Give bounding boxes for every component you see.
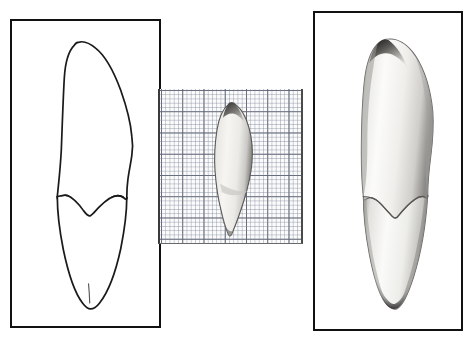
tooth-photo-on-grid: [160, 89, 301, 243]
tooth-line-drawing: [12, 21, 159, 326]
tooth-outline-path: [57, 42, 132, 216]
specimen-silhouette-path: [215, 103, 253, 236]
drawing-panel: [10, 19, 161, 328]
scale-photo-panel: [158, 89, 303, 244]
tooth-photograph: [315, 13, 461, 329]
figure-plate: [0, 0, 472, 340]
photo-panel: [313, 11, 463, 331]
